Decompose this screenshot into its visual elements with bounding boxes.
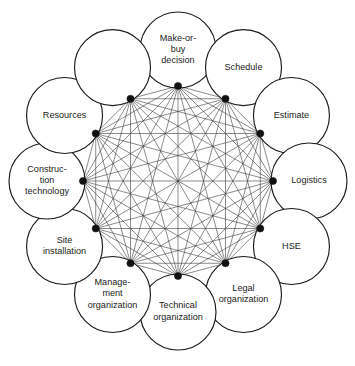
edge-line bbox=[96, 99, 226, 229]
hub-dot-management-organization bbox=[127, 260, 134, 267]
node-label-technical-organization: Technicalorganization bbox=[153, 301, 203, 322]
node-label-resources: Resources bbox=[43, 110, 87, 120]
hub-dot-make-or-buy-neighbor-gap bbox=[127, 95, 134, 102]
node-label-estimate: Estimate bbox=[274, 110, 309, 120]
node-label-schedule: Schedule bbox=[225, 62, 263, 72]
hub-dot-hse bbox=[257, 225, 264, 232]
hub-dot-resources bbox=[92, 130, 99, 137]
network-graph-svg: Make-or-buydecisionScheduleEstimateLogis… bbox=[0, 0, 355, 366]
edge-line bbox=[131, 134, 261, 264]
hub-dot-technical-organization bbox=[174, 272, 181, 279]
hub-dot-legal-organization bbox=[222, 260, 229, 267]
hub-dot-schedule bbox=[222, 95, 229, 102]
hub-dot-logistics bbox=[269, 177, 276, 184]
hub-dot-construction-technology bbox=[79, 177, 86, 184]
node-label-hse: HSE bbox=[282, 241, 301, 251]
factor-network-diagram: Make-or-buydecisionScheduleEstimateLogis… bbox=[0, 0, 355, 366]
hub-dot-estimate bbox=[257, 130, 264, 137]
edges-layer bbox=[83, 86, 273, 276]
hub-dot-site-installation bbox=[92, 225, 99, 232]
edge-line bbox=[96, 134, 226, 264]
edge-line bbox=[131, 99, 261, 229]
hub-dot-make-or-buy-decision bbox=[174, 82, 181, 89]
node-label-logistics: Logistics bbox=[291, 175, 327, 185]
edge-line bbox=[83, 181, 226, 263]
edge-line bbox=[96, 134, 178, 277]
node-circle-make-or-buy-neighbor-gap[interactable] bbox=[75, 30, 151, 106]
edge-line bbox=[131, 99, 274, 181]
